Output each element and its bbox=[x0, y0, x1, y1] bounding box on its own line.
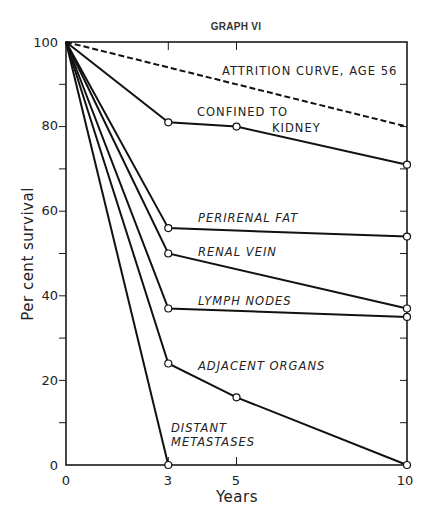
y-tick-0: 0 bbox=[50, 458, 58, 473]
data-point-marker bbox=[165, 305, 172, 312]
data-point-marker bbox=[404, 305, 411, 312]
data-point-marker bbox=[404, 313, 411, 320]
y-tick-40: 40 bbox=[41, 288, 58, 303]
data-point-marker bbox=[165, 360, 172, 367]
data-point-marker bbox=[404, 161, 411, 168]
series-distant-metastases bbox=[66, 42, 168, 465]
y-tick-80: 80 bbox=[41, 118, 58, 133]
data-point-marker bbox=[165, 119, 172, 126]
x-tick-labels: 0 3 5 10 bbox=[62, 473, 413, 488]
label-lymph: LYMPH NODES bbox=[198, 294, 292, 308]
data-point-marker bbox=[404, 233, 411, 240]
x-tick-0: 0 bbox=[62, 473, 70, 488]
x-tick-5: 5 bbox=[232, 473, 240, 488]
label-adjacent: ADJACENT ORGANS bbox=[197, 359, 325, 373]
label-confined-2: KIDNEY bbox=[272, 121, 321, 135]
y-tick-100: 100 bbox=[33, 35, 58, 50]
label-distant-1: DISTANT bbox=[171, 421, 227, 435]
y-axis-label: Per cent survival bbox=[19, 187, 37, 321]
data-point-marker bbox=[233, 394, 240, 401]
y-tick-60: 60 bbox=[41, 203, 58, 218]
survival-chart: GRAPH VI 0 20 40 60 80 100 0 3 5 10 Year… bbox=[0, 0, 429, 520]
label-renal-vein: RENAL VEIN bbox=[198, 245, 277, 259]
label-confined-1: CONFINED TO bbox=[197, 105, 288, 119]
label-distant-2: METASTASES bbox=[171, 435, 255, 449]
chart-title: GRAPH VI bbox=[211, 21, 262, 32]
y-tick-20: 20 bbox=[41, 373, 58, 388]
label-attrition: ATTRITION CURVE, AGE 56 bbox=[222, 64, 397, 78]
data-point-marker bbox=[165, 250, 172, 257]
data-point-marker bbox=[165, 225, 172, 232]
data-point-marker bbox=[233, 123, 240, 130]
x-tick-10: 10 bbox=[397, 473, 414, 488]
data-point-marker bbox=[404, 462, 411, 469]
data-point-marker bbox=[165, 462, 172, 469]
x-axis-label: Years bbox=[215, 488, 258, 506]
series-labels: ATTRITION CURVE, AGE 56 CONFINED TO KIDN… bbox=[171, 64, 397, 449]
x-tick-3: 3 bbox=[164, 473, 172, 488]
label-perirenal: PERIRENAL FAT bbox=[198, 211, 298, 225]
